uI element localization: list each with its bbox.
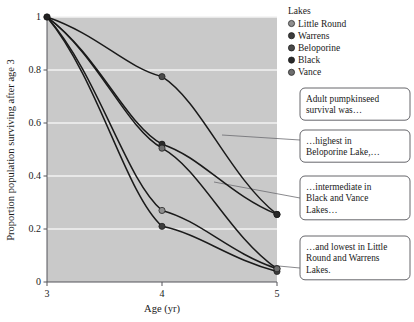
y-tick-label: 0.4	[29, 170, 42, 181]
legend-swatch-beloporine	[288, 45, 294, 51]
callout-boxes: Adult pumpkinseedsurvival was……highest i…	[300, 88, 410, 280]
x-tick-label: 4	[160, 288, 165, 299]
y-tick-label: 0.2	[29, 223, 42, 234]
callout-3: …intermediate inBlack and VanceLakes…	[300, 176, 410, 220]
legend-swatch-black	[288, 57, 294, 63]
legend-label-beloporine[interactable]: Beloporine	[298, 43, 340, 53]
data-point-vance-age5	[274, 266, 280, 272]
legend-label-vance[interactable]: Vance	[298, 67, 321, 77]
callout-4-line: …and lowest in Little	[306, 242, 387, 252]
survival-curve-chart: 00.20.40.60.81 345 Age (yr) Proportion p…	[0, 0, 414, 322]
callout-1-line: survival was…	[306, 105, 362, 115]
data-point-origin	[44, 14, 50, 20]
data-point-beloporine-age4	[159, 74, 165, 80]
y-axis-title: Proportion population surviving after ag…	[5, 59, 16, 241]
callout-3-line: Lakes…	[306, 205, 338, 215]
callout-1: Adult pumpkinseedsurvival was…	[300, 88, 410, 120]
callout-3-line: …intermediate in	[306, 182, 372, 192]
callout-4: …and lowest in LittleRound and WarrensLa…	[300, 236, 410, 280]
figure-container: 00.20.40.60.81 345 Age (yr) Proportion p…	[0, 0, 414, 322]
callout-2-line: Beloporine Lake,…	[306, 147, 380, 157]
callout-3-line: Black and Vance	[306, 193, 368, 203]
legend-label-black[interactable]: Black	[298, 55, 320, 65]
x-tick-label: 3	[45, 288, 50, 299]
callout-4-line: Lakes.	[306, 265, 331, 275]
callout-4-line: Round and Warrens	[306, 253, 380, 263]
y-tick-label: 0.6	[29, 117, 42, 128]
y-tick-label: 0	[36, 276, 41, 287]
callout-2: …highest inBeloporine Lake,…	[300, 130, 410, 162]
data-point-vance-age4	[159, 145, 165, 151]
x-axis-title: Age (yr)	[144, 303, 180, 315]
callout-2-line: …highest in	[306, 136, 352, 146]
legend-title: Lakes	[288, 6, 311, 16]
y-tick-label: 0.8	[29, 64, 42, 75]
legend-swatch-warrens	[288, 33, 294, 39]
legend-swatch-little-round	[288, 20, 294, 26]
legend-label-warrens[interactable]: Warrens	[298, 31, 330, 41]
y-tick-label: 1	[36, 11, 41, 22]
data-point-warrens-age4	[159, 223, 165, 229]
callout-1-line: Adult pumpkinseed	[306, 94, 379, 104]
data-point-black-age5	[274, 211, 280, 217]
legend-swatch-vance	[288, 69, 294, 75]
data-point-little-round-age4	[159, 207, 165, 213]
legend-label-little-round[interactable]: Little Round	[298, 19, 347, 29]
x-tick-label: 5	[275, 288, 280, 299]
